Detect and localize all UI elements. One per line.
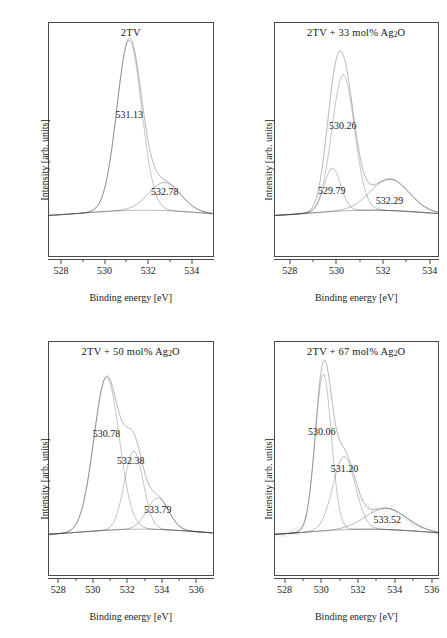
component-curve-1 (275, 374, 439, 534)
x-tick-label: 534 (422, 265, 437, 276)
x-tick-minor (126, 259, 127, 262)
envelope-curve (49, 38, 213, 216)
x-tick-minor (144, 578, 145, 581)
component-curve-1 (275, 75, 439, 216)
x-tick-label: 528 (51, 584, 66, 595)
y-axis-label: Intensity [arb. units] (263, 438, 274, 519)
x-tick-minor (413, 578, 414, 581)
x-tick-label: 532 (351, 584, 366, 595)
x-tick-minor (302, 578, 303, 581)
measured-data-points (275, 361, 439, 538)
x-tick-label: 534 (184, 265, 199, 276)
x-tick-minor (339, 578, 340, 581)
plot-frame: 2TV + 50 mol% Ag2O 530.78532.38533.79 (48, 341, 214, 576)
x-axis: 528530532534536 (274, 578, 440, 600)
x-tick (191, 259, 192, 264)
component-curve-2 (49, 183, 213, 216)
x-tick-label: 530 (314, 584, 329, 595)
x-tick-label: 528 (277, 584, 292, 595)
component-curve-3 (275, 179, 439, 215)
y-axis-label: Intensity [arb. units] (39, 438, 50, 519)
x-tick-minor (169, 259, 170, 262)
plot-frame: 2TV + 67 mol% Ag2O 530.06531.20533.52 (274, 341, 440, 576)
component-curve-2 (49, 451, 213, 534)
x-tick-label: 534 (387, 584, 402, 595)
x-axis: 528530532534536 (48, 578, 214, 600)
baseline-curve (49, 529, 213, 534)
y-axis-label: Intensity [arb. units] (39, 119, 50, 200)
x-axis-label: Binding energy [eV] (48, 292, 214, 303)
x-tick-label: 530 (85, 584, 100, 595)
plot-frame: 2TV 531.13532.78 (48, 22, 214, 257)
spectrum-curves (49, 342, 213, 575)
x-tick-minor (313, 259, 314, 262)
x-tick-minor (75, 578, 76, 581)
x-tick (321, 578, 322, 583)
x-tick (161, 578, 162, 583)
x-tick (289, 259, 290, 264)
x-axis: 528530532534 (48, 259, 214, 281)
component-curve-2 (275, 457, 439, 535)
x-tick-minor (376, 578, 377, 581)
x-tick-label: 528 (282, 265, 297, 276)
x-tick (383, 259, 384, 264)
measured-data-points (49, 376, 213, 535)
baseline-curve (275, 529, 439, 534)
x-tick (358, 578, 359, 583)
x-tick (336, 259, 337, 264)
x-tick (148, 259, 149, 264)
x-axis-label: Binding energy [eV] (274, 611, 440, 622)
x-tick-label: 532 (120, 584, 135, 595)
panel-2tv-67-ag2o: 2TV + 67 mol% Ag2O 530.06531.20533.52 In… (224, 319, 447, 638)
x-tick-minor (179, 578, 180, 581)
panel-2tv: 2TV 531.13532.78 Intensity [arb. units] … (0, 0, 224, 319)
x-tick (58, 578, 59, 583)
x-axis: 528530532534 (274, 259, 440, 281)
envelope-curve (275, 360, 439, 534)
x-tick (196, 578, 197, 583)
x-axis-label: Binding energy [eV] (274, 292, 440, 303)
x-tick-label: 532 (376, 265, 391, 276)
x-axis-label: Binding energy [eV] (48, 611, 214, 622)
x-tick-label: 536 (424, 584, 439, 595)
x-tick (92, 578, 93, 583)
x-tick-label: 530 (329, 265, 344, 276)
component-curve-3 (49, 498, 213, 534)
x-tick-label: 532 (141, 265, 156, 276)
x-tick-minor (110, 578, 111, 581)
x-tick-label: 534 (154, 584, 169, 595)
y-axis-label: Intensity [arb. units] (263, 119, 274, 200)
component-curve-1 (49, 40, 213, 215)
x-tick-minor (82, 259, 83, 262)
panel-2tv-50-ag2o: 2TV + 50 mol% Ag2O 530.78532.38533.79 In… (0, 319, 224, 638)
x-tick (429, 259, 430, 264)
measured-data-points (275, 51, 439, 216)
x-tick (61, 259, 62, 264)
panel-2tv-33-ag2o: 2TV + 33 mol% Ag2O 530.26529.79532.29 In… (224, 0, 447, 319)
component-curve-1 (49, 377, 213, 534)
x-tick-minor (406, 259, 407, 262)
x-tick-minor (359, 259, 360, 262)
baseline-curve (49, 210, 213, 215)
x-tick (104, 259, 105, 264)
component-curve-2 (275, 168, 439, 215)
x-tick-label: 528 (54, 265, 69, 276)
x-tick (431, 578, 432, 583)
baseline-curve (275, 210, 439, 215)
xps-spectra-figure: 2TV 531.13532.78 Intensity [arb. units] … (0, 0, 447, 638)
x-tick (284, 578, 285, 583)
x-tick-label: 536 (189, 584, 204, 595)
measured-data-points (49, 38, 213, 216)
spectrum-curves (49, 23, 213, 256)
x-tick-label: 530 (97, 265, 112, 276)
x-tick (127, 578, 128, 583)
plot-frame: 2TV + 33 mol% Ag2O 530.26529.79532.29 (274, 22, 440, 257)
x-tick (394, 578, 395, 583)
envelope-curve (275, 51, 439, 216)
spectrum-curves (275, 23, 439, 256)
spectrum-curves (275, 342, 439, 575)
